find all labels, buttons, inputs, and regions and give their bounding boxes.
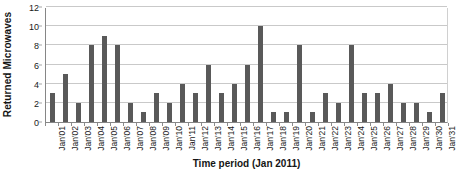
x-tick-label: Jan'25	[368, 126, 380, 158]
y-tick-mark	[39, 83, 42, 84]
bars-layer	[46, 8, 447, 122]
bar[interactable]	[154, 93, 159, 122]
x-tick-label: Jan'11	[186, 126, 198, 158]
y-tick-label: 12	[29, 4, 39, 13]
x-tick-label: Jan'26	[381, 126, 393, 158]
bar[interactable]	[50, 93, 55, 122]
bar[interactable]	[323, 93, 328, 122]
y-tick-label: 8	[34, 42, 39, 51]
x-tick-label: Jan'01	[56, 126, 68, 158]
x-tick-label: Jan'18	[277, 126, 289, 158]
bar[interactable]	[102, 36, 107, 122]
x-tick-label: Jan'30	[433, 126, 445, 158]
bar[interactable]	[375, 93, 380, 122]
x-tick-label: Jan'15	[238, 126, 250, 158]
x-tick-label: Jan'31	[446, 126, 458, 158]
bar[interactable]	[206, 65, 211, 123]
y-tick-label: 4	[34, 80, 39, 89]
y-axis-title: Returned Microwaves	[0, 0, 16, 128]
x-tick-label: Jan'04	[95, 126, 107, 158]
y-tick-label: 6	[34, 61, 39, 70]
bar[interactable]	[258, 26, 263, 122]
x-tick-label: Jan'09	[160, 126, 172, 158]
bar[interactable]	[336, 103, 341, 122]
bar[interactable]	[401, 103, 406, 122]
bar[interactable]	[167, 103, 172, 122]
x-tick-label: Jan'03	[82, 126, 94, 158]
bar[interactable]	[141, 112, 146, 122]
bar[interactable]	[349, 45, 354, 122]
x-tick-label: Jan'29	[420, 126, 432, 158]
x-tick-label: Jan'27	[394, 126, 406, 158]
x-tick-label: Jan'10	[173, 126, 185, 158]
x-tick-label: Jan'08	[147, 126, 159, 158]
bar[interactable]	[284, 112, 289, 122]
x-axis-tick-labels: Jan'01Jan'02Jan'03Jan'04Jan'05Jan'06Jan'…	[45, 126, 448, 158]
bar[interactable]	[427, 112, 432, 122]
x-tick-label: Jan'24	[355, 126, 367, 158]
x-tick-label: Jan'12	[199, 126, 211, 158]
bar[interactable]	[180, 84, 185, 122]
x-axis-title: Time period (Jan 2011)	[45, 158, 448, 169]
bar[interactable]	[232, 84, 237, 122]
plot-area	[45, 8, 448, 123]
bar[interactable]	[115, 45, 120, 122]
y-tick-mark	[39, 45, 42, 46]
y-tick-mark	[39, 64, 42, 65]
x-tick-label: Jan'20	[303, 126, 315, 158]
x-tick-label: Jan'17	[264, 126, 276, 158]
y-tick-mark	[39, 122, 42, 123]
y-axis-ticks: 024681012	[16, 8, 42, 123]
bar[interactable]	[362, 93, 367, 122]
bar[interactable]	[271, 112, 276, 122]
bar[interactable]	[388, 84, 393, 122]
x-tick-label: Jan'05	[108, 126, 120, 158]
x-tick-label: Jan'19	[290, 126, 302, 158]
y-axis-title-label: Returned Microwaves	[3, 11, 14, 116]
x-tick-label: Jan'21	[316, 126, 328, 158]
x-tick-label: Jan'13	[212, 126, 224, 158]
y-tick-label: 0	[34, 119, 39, 128]
x-tick-label: Jan'02	[69, 126, 81, 158]
bar[interactable]	[63, 74, 68, 122]
gridline	[46, 6, 447, 7]
bar[interactable]	[297, 45, 302, 122]
x-tick-label: Jan'22	[329, 126, 341, 158]
bar[interactable]	[193, 93, 198, 122]
x-tick-label: Jan'16	[251, 126, 263, 158]
bar[interactable]	[414, 103, 419, 122]
y-tick-mark	[39, 102, 42, 103]
y-tick-mark	[39, 26, 42, 27]
x-tick-label: Jan'23	[342, 126, 354, 158]
bar[interactable]	[440, 93, 445, 122]
bar[interactable]	[89, 45, 94, 122]
x-tick-label: Jan'07	[134, 126, 146, 158]
bar[interactable]	[310, 112, 315, 122]
bar[interactable]	[128, 103, 133, 122]
bar[interactable]	[219, 93, 224, 122]
bar[interactable]	[76, 103, 81, 122]
x-tick-label: Jan'14	[225, 126, 237, 158]
y-tick-label: 10	[29, 23, 39, 32]
x-tick-label: Jan'06	[121, 126, 133, 158]
y-tick-mark	[39, 7, 42, 8]
x-tick-label: Jan'28	[407, 126, 419, 158]
bar[interactable]	[245, 65, 250, 123]
y-tick-label: 2	[34, 99, 39, 108]
